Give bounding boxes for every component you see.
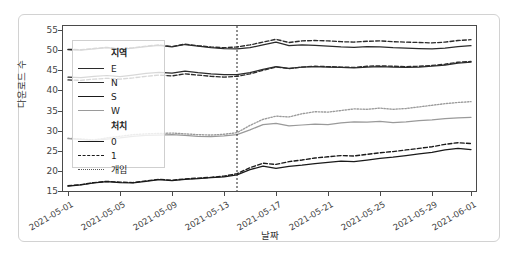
y-tick-label: 50 [47,45,58,55]
x-tick-mark [224,192,225,196]
y-tick-mark [58,30,62,31]
legend-item-label: 0 [111,137,117,147]
x-tick-mark [276,192,277,196]
y-tick-label: 15 [47,186,58,196]
legend-swatch-icon [78,165,104,175]
chart-screenshot: 다운로드 수 152025303540455055 날짜 지역ENSW처치01개… [0,0,517,258]
x-tick-mark [471,192,472,196]
x-tick-mark [432,192,433,196]
legend-swatch-icon [78,137,104,147]
legend-item[interactable]: N [78,76,159,90]
y-tick-label: 30 [47,126,58,136]
legend-group-title: 처치 [78,119,159,132]
x-tick-mark [120,192,121,196]
y-tick-label: 40 [47,85,58,95]
y-tick-label: 20 [47,166,58,176]
legend-item[interactable]: E [78,62,159,76]
legend-swatch-icon [78,78,104,88]
y-tick-label: 55 [47,25,58,35]
legend-item[interactable]: 0 [78,135,159,149]
y-tick-label: 35 [47,106,58,116]
y-tick-mark [58,50,62,51]
y-tick-mark [58,90,62,91]
legend-group-title: 지역 [78,46,159,59]
legend-item-label: 개입 [111,165,127,175]
legend-item[interactable]: 1 [78,149,159,163]
x-tick-mark [68,192,69,196]
chart-legend: 지역ENSW처치01개입 [72,40,165,168]
y-tick-mark [58,131,62,132]
legend-item-label: S [111,92,117,102]
legend-item[interactable]: S [78,90,159,104]
y-tick-mark [58,111,62,112]
x-tick-mark [172,192,173,196]
legend-item-label: E [111,64,117,74]
x-tick-mark [328,192,329,196]
y-tick-label: 25 [47,146,58,156]
x-tick-mark [380,192,381,196]
legend-swatch-icon [78,106,104,116]
legend-swatch-icon [78,92,104,102]
legend-item[interactable]: 개입 [78,163,159,177]
y-axis-ticks: 152025303540455055 [34,25,58,192]
y-tick-mark [58,171,62,172]
legend-item-label: N [111,78,118,88]
legend-item[interactable]: W [78,104,159,118]
legend-item-label: W [111,106,120,116]
y-tick-label: 45 [47,65,58,75]
y-tick-mark [58,191,62,192]
legend-swatch-icon [78,64,104,74]
legend-item-label: 1 [111,151,117,161]
y-axis-label: 다운로드 수 [14,60,28,108]
legend-swatch-icon [78,151,104,161]
y-tick-mark [58,70,62,71]
y-tick-mark [58,151,62,152]
